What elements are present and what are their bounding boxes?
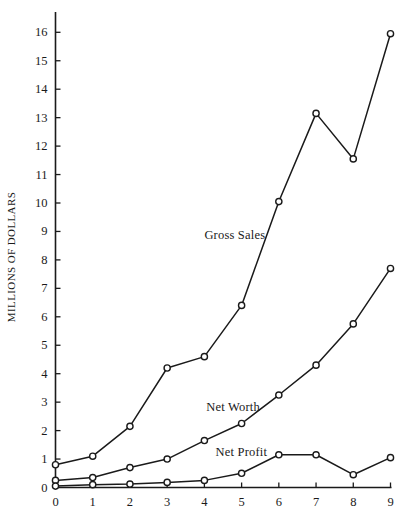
y-axis-tick-label: 13 [26,111,48,124]
y-axis-tick-label: 9 [26,225,48,238]
x-axis-tick-label: 6 [268,496,290,509]
data-point-marker [350,472,356,478]
x-axis-tick-label: 7 [305,496,327,509]
data-point-marker [52,483,58,489]
x-axis-tick-label: 9 [380,496,402,509]
y-axis-title: MILLIONS OF DOLLARS [0,0,22,514]
data-point-marker [127,481,133,487]
line-chart: MILLIONS OF DOLLARS 01234567891011121314… [0,0,407,514]
y-axis-tick-label: 15 [26,55,48,68]
x-axis-tick-label: 4 [193,496,215,509]
data-point-marker [313,362,319,368]
y-axis-tick-label: 4 [26,367,48,380]
x-axis-tick-label: 5 [231,496,253,509]
data-point-marker [387,31,393,37]
y-axis-tick-label: 3 [26,396,48,409]
data-point-marker [201,437,207,443]
data-point-marker [127,423,133,429]
plot-area [0,0,407,514]
data-point-marker [52,462,58,468]
data-point-marker [239,470,245,476]
x-axis-tick-label: 8 [342,496,364,509]
y-axis-tick-label: 8 [26,254,48,267]
y-axis-tick-label: 7 [26,282,48,295]
y-axis-tick-label: 0 [26,481,48,494]
y-axis-tick-label: 10 [26,197,48,210]
data-point-marker [276,452,282,458]
data-point-marker [313,452,319,458]
data-point-marker [276,392,282,398]
y-axis-tick-label: 2 [26,424,48,437]
x-axis-tick-label: 0 [45,496,67,509]
data-point-marker [350,321,356,327]
y-axis-tick-label: 14 [26,83,48,96]
data-point-marker [127,464,133,470]
data-point-marker [90,482,96,488]
x-axis-tick-label: 3 [156,496,178,509]
data-point-marker [387,455,393,461]
data-point-marker [201,354,207,360]
data-point-marker [276,198,282,204]
series-label: Net Profit [216,445,268,460]
data-point-marker [313,110,319,116]
x-axis-tick-label: 2 [119,496,141,509]
data-point-marker [164,479,170,485]
data-point-marker [164,456,170,462]
y-axis-tick-label: 11 [26,168,48,181]
data-point-marker [90,453,96,459]
y-axis-tick-label: 1 [26,453,48,466]
data-point-marker [90,474,96,480]
data-point-marker [350,156,356,162]
y-axis-tick-label: 5 [26,339,48,352]
data-point-marker [201,477,207,483]
series-label: Gross Sales [204,228,265,243]
data-point-marker [239,302,245,308]
y-axis-tick-label: 12 [26,140,48,153]
x-axis-tick-label: 1 [82,496,104,509]
data-point-marker [239,420,245,426]
data-point-marker [387,265,393,271]
y-axis-tick-label: 6 [26,311,48,324]
series-label: Net Worth [206,400,260,415]
y-axis-tick-label: 16 [26,26,48,39]
data-point-marker [164,365,170,371]
